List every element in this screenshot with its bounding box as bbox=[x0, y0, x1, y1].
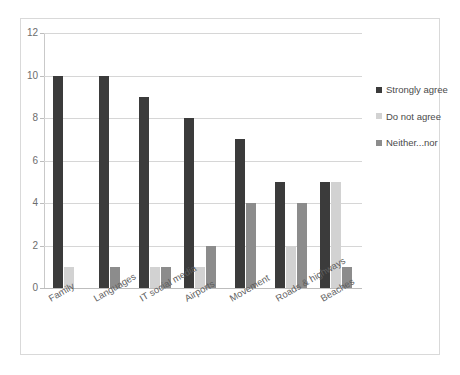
legend-item[interactable]: Strongly agree bbox=[376, 85, 448, 95]
bar[interactable] bbox=[246, 203, 256, 288]
bar[interactable] bbox=[139, 97, 149, 288]
y-axis-tick-label: 4 bbox=[32, 198, 38, 208]
legend-label: Do not agree bbox=[386, 112, 441, 122]
y-axis-tick-mark bbox=[40, 118, 44, 119]
bar-group bbox=[139, 33, 171, 288]
bar-group bbox=[184, 33, 216, 288]
y-axis-tick-label: 12 bbox=[27, 28, 38, 38]
bar[interactable] bbox=[275, 182, 285, 288]
plot-area: 024681012 FamilyLanguagesIT social media… bbox=[44, 33, 362, 289]
y-axis-tick-mark bbox=[40, 33, 44, 34]
y-axis-tick-label: 10 bbox=[27, 71, 38, 81]
y-axis-tick-mark bbox=[40, 288, 44, 289]
legend-label: Strongly agree bbox=[386, 85, 448, 95]
y-axis-tick-mark bbox=[40, 76, 44, 77]
y-axis-tick-mark bbox=[40, 161, 44, 162]
y-axis-tick-mark bbox=[40, 246, 44, 247]
bar[interactable] bbox=[99, 76, 109, 289]
bar-group bbox=[320, 33, 352, 288]
y-axis-tick-mark bbox=[40, 203, 44, 204]
bar[interactable] bbox=[235, 139, 245, 288]
bar-group bbox=[235, 33, 256, 288]
y-axis-tick-label: 6 bbox=[32, 156, 38, 166]
y-axis-tick-label: 2 bbox=[32, 241, 38, 251]
bar-group bbox=[53, 33, 74, 288]
bar-group bbox=[99, 33, 120, 288]
legend-swatch-icon bbox=[376, 113, 382, 119]
chart-legend: Strongly agreeDo not agreeNeither...nor bbox=[376, 85, 448, 165]
legend-label: Neither...nor bbox=[386, 138, 438, 148]
legend-swatch-icon bbox=[376, 87, 382, 93]
legend-swatch-icon bbox=[376, 140, 382, 146]
bar-group bbox=[275, 33, 307, 288]
x-axis-category-label: Family bbox=[47, 281, 76, 303]
y-axis-tick-label: 0 bbox=[32, 283, 38, 293]
chart-frame: 024681012 FamilyLanguagesIT social media… bbox=[20, 18, 440, 355]
legend-item[interactable]: Neither...nor bbox=[376, 138, 448, 148]
y-axis-tick-label: 8 bbox=[32, 113, 38, 123]
bar[interactable] bbox=[53, 76, 63, 289]
legend-item[interactable]: Do not agree bbox=[376, 112, 448, 122]
